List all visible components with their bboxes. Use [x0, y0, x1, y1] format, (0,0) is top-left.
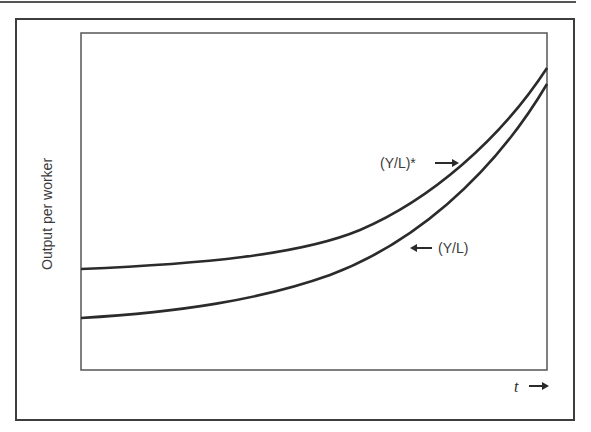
outer-frame	[16, 19, 574, 420]
right-arrow-icon	[435, 159, 459, 167]
y-axis-label: Output per worker	[39, 158, 55, 270]
figure: Output per worker (Y/L)* (Y/L) t	[0, 0, 591, 432]
x-axis-label: t	[514, 378, 519, 395]
left-arrow-icon	[410, 244, 432, 252]
x-axis-arrow-icon	[529, 382, 549, 390]
curve-y-l	[81, 84, 547, 318]
upper-series-label: (Y/L)*	[380, 155, 416, 171]
curve-y-l-star	[81, 68, 547, 269]
lower-series-label: (Y/L)	[438, 240, 468, 256]
plot-area	[81, 33, 547, 370]
